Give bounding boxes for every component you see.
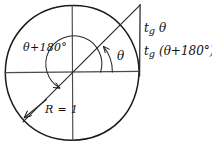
tangent-theta-plus-180-label: tg (θ+180°) xyxy=(144,45,212,59)
trigonometry-figure: θ θ+180° R = 1 tg θ tg (θ+180°) xyxy=(0,0,212,152)
tangent-theta-label: tg θ xyxy=(144,22,166,36)
radius-label: R = 1 xyxy=(45,104,78,115)
angle-theta-label: θ xyxy=(117,50,124,62)
tangent-theta-arg: θ xyxy=(159,21,166,35)
tangent-line xyxy=(140,5,141,76)
theta-arc xyxy=(104,47,113,72)
tangent-theta180-arg: (θ+180°) xyxy=(159,44,212,58)
angle-theta-plus-180-label: θ+180° xyxy=(23,42,67,53)
radius-leader-line xyxy=(25,100,47,118)
tangent-theta-g: g xyxy=(149,25,155,36)
figure-canvas xyxy=(0,0,212,152)
tangent-theta180-g: g xyxy=(149,48,155,59)
